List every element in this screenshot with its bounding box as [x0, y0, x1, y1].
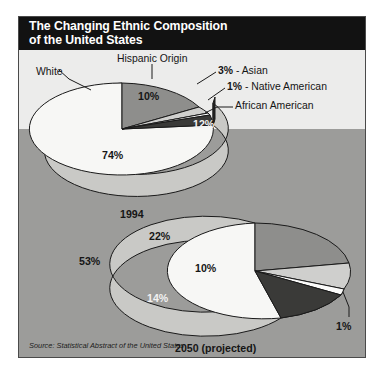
- value-1994-white: 74%: [102, 149, 123, 161]
- label-african-american: African American: [235, 100, 314, 111]
- label-asian-name: - Asian: [233, 65, 268, 76]
- label-native-name: - Native American: [242, 81, 327, 92]
- value-2050-african-american: 14%: [147, 292, 168, 304]
- leader-asian-icon: [197, 72, 216, 84]
- value-1994-african-american: 12%: [193, 118, 214, 130]
- label-white: White: [36, 66, 63, 77]
- pie-1994-white-slice: [29, 83, 213, 175]
- pie-1994-year-label: 1994: [120, 208, 144, 220]
- value-2050-asian: 10%: [195, 262, 216, 274]
- value-2050-hispanic: 22%: [149, 230, 170, 242]
- pie-1994: [29, 83, 228, 196]
- chart-panel: The Changing Ethnic Composition of the U…: [18, 16, 366, 358]
- label-asian-pct: 3%: [218, 65, 233, 76]
- leader-native-icon: [208, 88, 225, 100]
- source-note: Source: Statistical Abstract of the Unit…: [29, 341, 184, 350]
- pie-2050-leader-lines: [343, 292, 349, 317]
- value-2050-white: 53%: [79, 255, 100, 267]
- label-asian: 3% - Asian: [218, 65, 268, 76]
- label-hispanic-origin: Hispanic Origin: [117, 53, 187, 64]
- pie-chart-stage: [19, 17, 366, 358]
- label-native-pct: 1%: [227, 81, 242, 92]
- pie-2050: [110, 216, 351, 336]
- value-2050-native-american: 1%: [336, 320, 351, 332]
- value-1994-hispanic: 10%: [138, 90, 159, 102]
- label-native-american: 1% - Native American: [227, 81, 327, 92]
- pie-2050-year-label: 2050 (projected): [175, 342, 256, 354]
- leader-2050-native-icon: [343, 292, 349, 317]
